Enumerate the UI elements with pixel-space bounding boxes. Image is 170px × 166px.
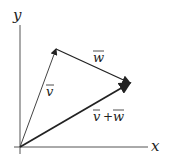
vector-addition-diagram: x y v w v + w — [0, 0, 170, 166]
svg-text:+: + — [103, 110, 113, 124]
svg-text:w: w — [93, 50, 104, 65]
svg-text:v: v — [93, 109, 101, 124]
svg-text:v: v — [46, 84, 54, 99]
y-axis-label: y — [12, 6, 22, 24]
label-w: w — [93, 50, 104, 65]
label-v: v — [46, 84, 54, 99]
x-axis-label: x — [151, 137, 160, 155]
svg-text:w: w — [113, 109, 124, 124]
label-sum: v + w — [93, 109, 124, 124]
